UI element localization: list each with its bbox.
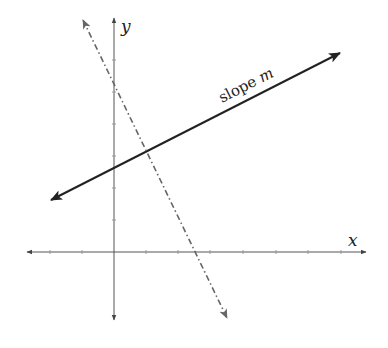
dash-dot-line (83, 20, 227, 318)
slope-m-line (51, 53, 340, 200)
slope-label-text: slope (216, 70, 264, 106)
y-axis-label: y (120, 16, 131, 36)
coordinate-diagram: x y slope m (0, 0, 388, 348)
x-axis-label: x (348, 230, 358, 250)
